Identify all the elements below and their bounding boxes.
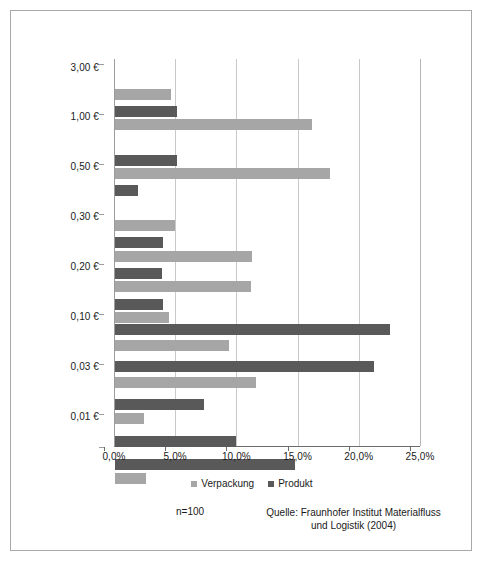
y-axis-tick-0	[99, 64, 104, 65]
bar-produkt-15	[115, 361, 374, 372]
x-axis-label-4: 20,0%	[344, 451, 373, 462]
plot-area	[114, 59, 420, 447]
y-axis-tick-2	[99, 164, 104, 165]
y-axis-tick-5	[99, 314, 104, 315]
bar-verpackung-8	[115, 251, 252, 262]
gridline-20	[359, 59, 360, 446]
chart-footer: n=100 Quelle: Fraunhofer Institut Materi…	[21, 506, 482, 546]
square-swatch-dark-icon	[268, 481, 274, 487]
chart-legend: VerpackungProdukt	[11, 478, 482, 489]
x-axis-tick-5	[410, 447, 411, 451]
bar-produkt-5	[115, 185, 138, 196]
y-axis-label-1: 1,00 €	[71, 111, 99, 122]
y-axis-tick-1	[99, 114, 104, 115]
y-axis-label-4: 0,20 €	[71, 261, 99, 272]
x-axis-tick-4	[349, 447, 350, 451]
bar-verpackung-16	[115, 377, 256, 388]
legend-item-verpackung[interactable]: Verpackung	[191, 478, 254, 489]
bar-verpackung-4	[115, 168, 330, 179]
bar-verpackung-14	[115, 340, 229, 351]
bar-produkt-17	[115, 399, 204, 410]
square-swatch-light-icon	[191, 481, 197, 487]
bar-produkt-11	[115, 299, 163, 310]
source-line-1: Quelle: Fraunhofer Institut Materialflus…	[246, 506, 461, 519]
bar-verpackung-2	[115, 119, 312, 130]
bar-verpackung-0	[115, 89, 171, 100]
bar-verpackung-18	[115, 413, 144, 424]
y-axis: 3,00 €1,00 €0,50 €0,30 €0,20 €0,10 €0,03…	[21, 59, 109, 447]
x-axis-label-0: 0,0%	[102, 451, 125, 462]
gridline-15	[298, 59, 299, 446]
source-attribution: Quelle: Fraunhofer Institut Materialflus…	[246, 506, 461, 532]
y-axis-label-7: 0,01 €	[71, 411, 99, 422]
bar-produkt-1	[115, 106, 177, 117]
source-line-2: und Logistik (2004)	[246, 519, 461, 532]
y-axis-tick-3	[99, 214, 104, 215]
legend-item-produkt[interactable]: Produkt	[268, 478, 312, 489]
x-axis-label-3: 15,0%	[283, 451, 312, 462]
y-axis-tick-7	[99, 414, 104, 415]
x-axis-label-5: 25,0%	[406, 451, 435, 462]
legend-label-1: Produkt	[278, 478, 312, 489]
chart-page: 3,00 €1,00 €0,50 €0,30 €0,20 €0,10 €0,03…	[0, 0, 482, 561]
bar-produkt-3	[115, 155, 177, 166]
bar-produkt-7	[115, 237, 163, 248]
legend-label-0: Verpackung	[201, 478, 254, 489]
y-axis-label-5: 0,10 €	[71, 311, 99, 322]
bar-produkt-13	[115, 324, 390, 335]
x-axis-tick-3	[288, 447, 289, 451]
bar-verpackung-12	[115, 312, 169, 323]
x-axis-label-2: 10,0%	[222, 451, 251, 462]
x-axis-tick-2	[226, 447, 227, 451]
x-axis-tick-0	[104, 447, 105, 451]
bar-verpackung-10	[115, 281, 251, 292]
chart-frame: 3,00 €1,00 €0,50 €0,30 €0,20 €0,10 €0,03…	[10, 10, 472, 551]
x-axis-label-1: 5,0%	[164, 451, 187, 462]
y-axis-tick-4	[99, 264, 104, 265]
y-axis-tick-6	[99, 364, 104, 365]
x-axis-labels: 0,0%5,0%10,0%15,0%20,0%25,0%	[11, 451, 482, 467]
x-axis-tick-1	[165, 447, 166, 451]
y-axis-label-3: 0,30 €	[71, 211, 99, 222]
gridline-25	[420, 59, 421, 446]
bar-verpackung-6	[115, 220, 175, 231]
y-axis-label-0: 3,00 €	[71, 62, 99, 73]
y-axis-label-2: 0,50 €	[71, 161, 99, 172]
bar-produkt-9	[115, 268, 162, 279]
bar-produkt-19	[115, 436, 236, 447]
y-axis-label-6: 0,03 €	[71, 361, 99, 372]
sample-size-label: n=100	[176, 506, 204, 517]
